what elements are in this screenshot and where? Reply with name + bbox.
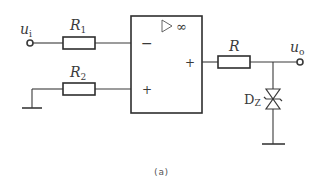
input-terminal xyxy=(27,40,33,46)
r2-label: R2 xyxy=(69,64,86,82)
input-label: ui xyxy=(20,21,32,39)
infinity-symbol: ∞ xyxy=(176,19,187,34)
r1-label: R1 xyxy=(69,17,86,35)
circuit-diagram: ui R1 R2 R uo DZ − + + ∞ (a) xyxy=(0,0,324,186)
output-sign: + xyxy=(185,56,195,70)
inverting-sign: − xyxy=(141,35,153,51)
r-label: R xyxy=(228,38,240,54)
output-terminal xyxy=(297,59,303,65)
zener-diode-icon xyxy=(264,89,282,109)
zener-label: DZ xyxy=(244,92,261,108)
output-label: uo xyxy=(290,39,304,57)
resistor-r1 xyxy=(63,37,95,49)
resistor-r xyxy=(218,56,250,68)
resistor-r2 xyxy=(63,83,95,95)
figure-caption: (a) xyxy=(153,167,169,177)
noninverting-sign: + xyxy=(142,83,152,97)
